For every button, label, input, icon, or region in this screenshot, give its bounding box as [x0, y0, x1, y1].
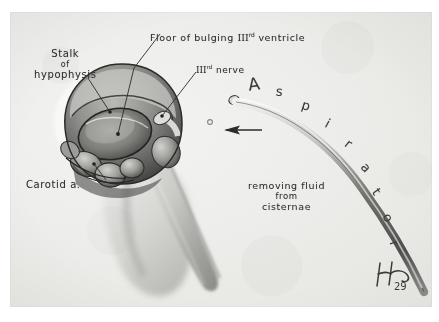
label-nerve-roman: III: [196, 65, 207, 75]
label-stalk-line3: hypophysis: [34, 69, 97, 81]
label-stalk-line1: Stalk: [34, 48, 97, 60]
label-nerve-rest: nerve: [212, 65, 244, 75]
drawing-plate: Floor of bulging IIIrd ventricle Stalk o…: [10, 12, 432, 307]
ink-speck: [208, 120, 213, 125]
label-stalk-line2: of: [34, 60, 97, 69]
label-floor-part2: ventricle: [255, 32, 306, 43]
label-floor-part1: Floor of bulging: [150, 32, 237, 43]
label-third-nerve: IIIrd nerve: [196, 64, 245, 76]
artist-signature: 29: [372, 259, 418, 293]
leader-dot-nerve: [160, 114, 164, 118]
label-carotid-artery: Carotid a.: [26, 179, 81, 191]
label-stalk-of-hypophysis: Stalk of hypophysis: [34, 48, 97, 81]
label-removing-fluid: removing fluid from cisternae: [248, 180, 325, 212]
label-removing-line1: removing fluid: [248, 180, 325, 191]
label-removing-line2: from: [248, 191, 325, 201]
signature-year: 29: [394, 281, 407, 292]
leader-dot-carotid: [92, 162, 96, 166]
label-removing-line3: cisternae: [248, 201, 325, 212]
label-floor-roman: III: [237, 32, 248, 43]
label-floor-of-third-ventricle: Floor of bulging IIIrd ventricle: [150, 32, 305, 43]
leader-dot-floor: [116, 132, 120, 136]
leader-dot-stalk: [108, 110, 112, 114]
aspirator-letter: s: [275, 84, 283, 100]
illustration-canvas: Floor of bulging IIIrd ventricle Stalk o…: [0, 0, 439, 322]
flow-arrow-icon: [224, 126, 262, 135]
aspirator-letter: A: [247, 73, 261, 94]
